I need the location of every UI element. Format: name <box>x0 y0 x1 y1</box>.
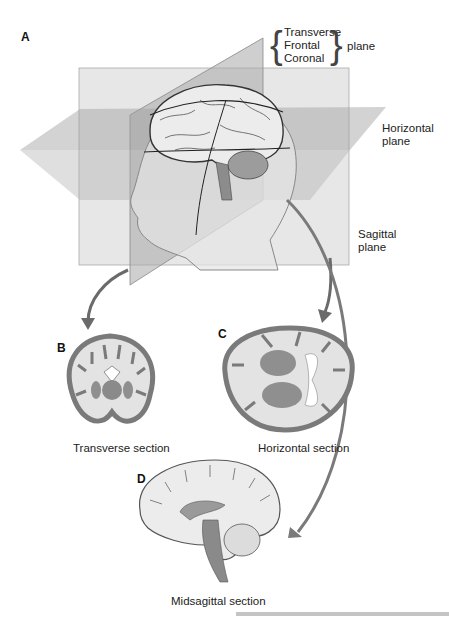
sagittal-plane-label-line1: Sagittal <box>358 228 396 241</box>
transverse-section-shape <box>69 336 152 421</box>
right-brace-icon: } <box>330 26 343 64</box>
sagittal-plane-label: Sagittal plane <box>358 228 396 254</box>
caption-horizontal-section: Horizontal section <box>258 442 349 455</box>
horizontal-section-shape <box>225 328 352 430</box>
sagittal-plane-label-line2: plane <box>358 241 396 254</box>
bracket-suffix-plane: plane <box>347 40 375 53</box>
horizontal-plane-label: Horizontal plane <box>382 122 434 148</box>
caption-transverse-section: Transverse section <box>73 442 170 455</box>
panel-label-d: D <box>137 472 146 486</box>
caption-midsagittal-section: Midsagittal section <box>171 595 266 608</box>
left-brace-icon: { <box>270 26 283 64</box>
panel-label-c: C <box>218 327 227 341</box>
horizontal-plane-label-line1: Horizontal <box>382 122 434 135</box>
brain-planes-illustration <box>0 0 449 618</box>
panel-label-a: A <box>21 30 30 44</box>
horizontal-plane-label-line2: plane <box>382 135 434 148</box>
cropped-text-fragment <box>236 612 449 616</box>
panel-label-b: B <box>57 341 66 355</box>
midsagittal-section-shape <box>140 460 280 582</box>
